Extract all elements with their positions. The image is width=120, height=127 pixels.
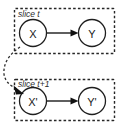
node-x-prime-label: X' xyxy=(28,96,37,108)
two-time-slice-network-diagram: slice t X Y slice t+1 X' Y' xyxy=(0,0,120,127)
node-y-prime-label: Y' xyxy=(87,96,96,108)
edge-xprime-to-yprime xyxy=(47,97,79,104)
plate-slice-t-label: slice t xyxy=(18,9,40,19)
diagram-canvas: slice t X Y slice t+1 X' Y' xyxy=(0,0,120,127)
node-x-label: X xyxy=(29,28,37,40)
node-y-label: Y xyxy=(88,28,96,40)
edge-x-to-y xyxy=(47,29,79,36)
edge-x-to-y-arrowhead xyxy=(71,29,79,36)
edge-xprime-to-yprime-arrowhead xyxy=(71,97,79,104)
